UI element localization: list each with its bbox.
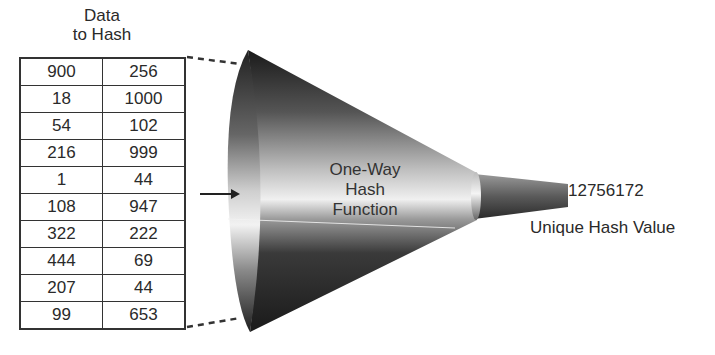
connector-line-bottom — [187, 318, 240, 327]
hash-value: 12756172 — [568, 181, 644, 201]
label-line-3: Function — [300, 200, 430, 220]
funnel-neck — [471, 172, 481, 220]
funnel-spout — [474, 174, 568, 219]
label-line-2: Hash — [300, 180, 430, 200]
label-line-1: One-Way — [300, 160, 430, 180]
hash-value-caption: Unique Hash Value — [530, 218, 675, 238]
connector-line-top — [187, 57, 240, 64]
hash-function-label: One-Way Hash Function — [300, 160, 430, 220]
